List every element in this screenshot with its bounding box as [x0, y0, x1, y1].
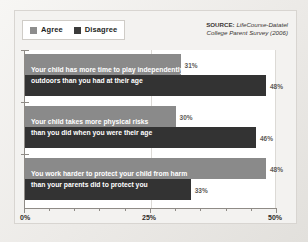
source-label: SOURCE:	[206, 21, 235, 28]
x-tick-minor	[99, 208, 100, 211]
bar-fill	[25, 75, 266, 96]
source-line-1: SOURCE: LifeCourse-Datatel	[206, 21, 288, 29]
bar-group: 48% 33% You work harder to protect your …	[25, 158, 276, 204]
x-tick-minor	[49, 208, 50, 211]
bar-fill	[25, 127, 256, 148]
bar-agree[interactable]: 31%	[25, 54, 181, 75]
square-swatch-icon	[74, 27, 81, 34]
x-tick-major	[150, 208, 151, 213]
x-tick-minor	[200, 208, 201, 211]
bar-fill	[25, 106, 176, 127]
chart-figure: Agree Disagree SOURCE: LifeCourse-Datate…	[0, 0, 308, 242]
x-tick-label-50: 50%	[268, 214, 282, 221]
x-tick-minor	[74, 208, 75, 211]
legend-entry-disagree: Disagree	[74, 26, 118, 34]
legend-label-disagree: Disagree	[85, 26, 118, 34]
bar-value-label: 48%	[270, 82, 283, 89]
bar-agree[interactable]: 48%	[25, 158, 266, 179]
x-tick-minor	[175, 208, 176, 211]
source-dataset: LifeCourse-Datatel	[235, 21, 288, 28]
bar-fill	[25, 179, 191, 200]
bar-fill	[25, 54, 181, 75]
bar-disagree[interactable]: 46%	[25, 127, 256, 148]
bar-agree[interactable]: 30%	[25, 106, 176, 127]
bar-disagree[interactable]: 48%	[25, 75, 266, 96]
axis-tick-major	[21, 154, 29, 155]
source-line-2: College Parent Survey (2006)	[206, 29, 288, 37]
chart-legend: Agree Disagree	[22, 20, 125, 40]
bar-value-label: 48%	[270, 165, 283, 172]
axis-tick-major	[21, 50, 29, 51]
bar-value-label: 30%	[180, 113, 193, 120]
x-tick-major	[276, 208, 277, 213]
x-tick-minor	[226, 208, 227, 211]
axis-tick-major	[21, 102, 29, 103]
bar-fill	[25, 158, 266, 179]
x-tick-label-0: 0%	[20, 214, 30, 221]
x-tick-minor	[251, 208, 252, 211]
bar-value-label: 46%	[260, 134, 273, 141]
bar-disagree[interactable]: 33%	[25, 179, 191, 200]
bar-value-label: 31%	[185, 61, 198, 68]
bar-group: 30% 46% Your child takes more physical r…	[25, 106, 276, 152]
x-tick-major	[24, 208, 25, 213]
legend-label-agree: Agree	[41, 26, 63, 34]
source-attribution: SOURCE: LifeCourse-Datatel College Paren…	[206, 21, 288, 38]
x-tick-label-25: 25%	[142, 214, 156, 221]
legend-entry-agree: Agree	[30, 26, 63, 34]
bar-group: 31% 48% Your child has more time to play…	[25, 54, 276, 100]
plot-area: 31% 48% Your child has more time to play…	[24, 50, 276, 208]
x-tick-minor	[125, 208, 126, 211]
square-swatch-icon	[30, 27, 37, 34]
bar-value-label: 33%	[195, 186, 208, 193]
